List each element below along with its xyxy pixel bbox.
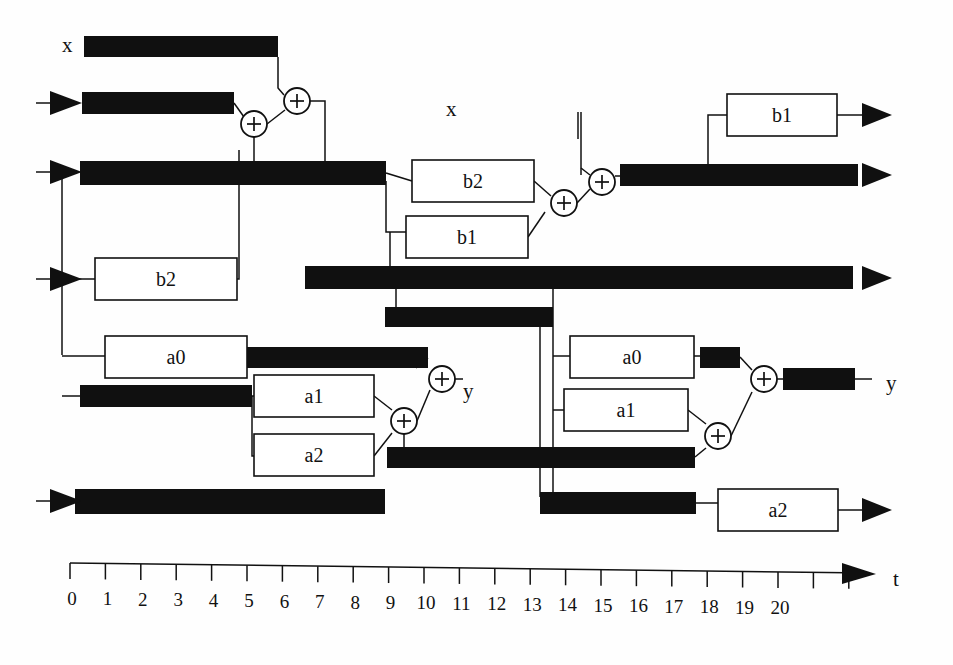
axis-tick-label-19: 19 — [735, 597, 754, 618]
y-label-left: y — [463, 379, 474, 403]
input-arrow-row3 — [36, 160, 82, 184]
box-a2-left-label: a2 — [305, 444, 324, 466]
box-a1-right[interactable]: a1 — [564, 389, 688, 431]
box-b2-left-label: b2 — [156, 268, 176, 290]
bar-y-right-out — [783, 368, 855, 390]
box-a0-left-label: a0 — [167, 346, 186, 368]
box-a0-right[interactable]: a0 — [570, 336, 694, 378]
axis-tick-label-7: 7 — [315, 591, 325, 612]
output-arrow-b-row — [862, 163, 892, 187]
axis-tick-label-2: 2 — [138, 589, 148, 610]
adder-7 — [705, 423, 731, 449]
bar-row3-long — [80, 161, 386, 185]
box-b1-mid-label: b1 — [457, 226, 477, 248]
axis-tick-label-1: 1 — [103, 588, 113, 609]
box-a1-right-label: a1 — [617, 399, 636, 421]
axis-tick-label-9: 9 — [386, 592, 396, 613]
axis-tick-label-3: 3 — [173, 589, 183, 610]
axis-tick-label-10: 10 — [417, 592, 436, 613]
axis-tick-label-13: 13 — [523, 594, 542, 615]
box-b2-mid-label: b2 — [463, 170, 483, 192]
box-a1-left-label: a1 — [305, 385, 324, 407]
bar-row-a1-in — [80, 385, 252, 407]
x-label-mid: x — [446, 97, 457, 121]
axis-tick-label-11: 11 — [452, 593, 470, 614]
bar-a0-left-out — [234, 347, 428, 368]
adder-4 — [589, 169, 615, 195]
box-b1-right-label: b1 — [772, 104, 792, 126]
y-label-right: y — [886, 371, 897, 395]
axis-tick-label-8: 8 — [350, 592, 360, 613]
adder-2 — [284, 88, 310, 114]
axis-tick-label-6: 6 — [280, 591, 290, 612]
box-a2-right[interactable]: a2 — [718, 489, 838, 531]
axis-tick-label-0: 0 — [67, 588, 77, 609]
bar-a2-left-out — [387, 447, 695, 468]
adder-1 — [241, 111, 267, 137]
box-b1-right[interactable]: b1 — [727, 94, 837, 136]
output-arrow-row4 — [862, 266, 892, 290]
bar-row5 — [385, 307, 553, 327]
axis-tick-label-16: 16 — [629, 595, 648, 616]
bar-out-b — [620, 164, 858, 186]
adder-5 — [391, 408, 417, 434]
diagram-canvas: b2a0a1a2b2b1b1a0a1a2 xxyyt 0123456789101… — [0, 0, 953, 665]
output-arrow-b1-right — [862, 103, 892, 127]
adder-8 — [751, 366, 777, 392]
axis-tick-label-4: 4 — [209, 590, 219, 611]
box-a2-left[interactable]: a2 — [254, 434, 374, 476]
bar-row4-long — [305, 266, 853, 289]
bar-x-top — [84, 36, 278, 57]
adder-6 — [429, 366, 455, 392]
time-axis: 01234567891011121314151617181920 — [67, 563, 876, 618]
adder-3 — [551, 190, 577, 216]
bar-bottom-mid — [540, 492, 696, 514]
output-arrow-a2-right — [862, 498, 892, 522]
box-a2-right-label: a2 — [769, 499, 788, 521]
input-arrow-row2 — [36, 91, 82, 115]
bar-row2-left — [82, 92, 234, 114]
x-label-left: x — [62, 33, 73, 57]
axis-tick-label-17: 17 — [664, 596, 683, 617]
box-a1-left[interactable]: a1 — [254, 375, 374, 417]
axis-tick-label-5: 5 — [244, 590, 254, 611]
input-arrow-b2 — [36, 267, 82, 291]
axis-tick-label-20: 20 — [771, 597, 790, 618]
box-a0-right-label: a0 — [623, 346, 642, 368]
axis-tick-label-18: 18 — [700, 596, 719, 617]
axis-tick-label-15: 15 — [594, 595, 613, 616]
bar-a0-right-out — [700, 347, 740, 368]
box-b1-mid[interactable]: b1 — [406, 216, 528, 258]
box-a0-left[interactable]: a0 — [105, 336, 247, 378]
box-b2-mid[interactable]: b2 — [412, 160, 534, 202]
bar-bottom-left — [75, 489, 385, 514]
time-axis-line — [70, 563, 868, 573]
time-axis-arrowhead — [842, 563, 876, 584]
axis-tick-label-12: 12 — [487, 593, 506, 614]
box-b2-left[interactable]: b2 — [95, 258, 237, 300]
pipeline-timing-diagram: b2a0a1a2b2b1b1a0a1a2 xxyyt 0123456789101… — [0, 0, 953, 665]
t-label: t — [893, 567, 899, 591]
axis-tick-label-14: 14 — [558, 594, 578, 615]
